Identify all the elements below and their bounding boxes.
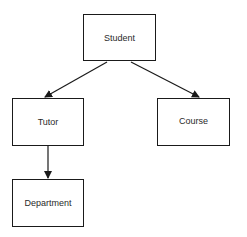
node-tutor: Tutor xyxy=(12,98,84,146)
edge-student-course-arrow xyxy=(131,62,199,97)
node-student-label: Student xyxy=(104,33,135,43)
node-department-label: Department xyxy=(24,198,71,208)
node-course-label: Course xyxy=(179,116,208,126)
node-department: Department xyxy=(12,179,84,227)
node-tutor-label: Tutor xyxy=(38,117,59,127)
edge-student-tutor-arrow xyxy=(45,62,107,97)
node-student: Student xyxy=(83,14,156,61)
node-course: Course xyxy=(157,98,230,146)
hierarchy-diagram: Student Tutor Course Department xyxy=(0,0,247,237)
